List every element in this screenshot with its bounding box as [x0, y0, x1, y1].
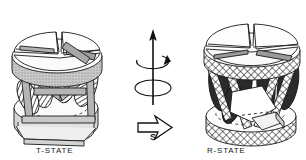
- diagram-svg: S: [0, 0, 306, 160]
- t-state-caption: T-STATE: [36, 146, 73, 155]
- figure-canvas: S: [0, 0, 306, 160]
- t-base-plate: [16, 126, 96, 146]
- r-state-caption: R-STATE: [207, 146, 246, 155]
- t-upper-catalytic-wedges: [14, 32, 100, 71]
- t-state-model: [12, 32, 102, 146]
- substrate-label: S: [150, 132, 156, 142]
